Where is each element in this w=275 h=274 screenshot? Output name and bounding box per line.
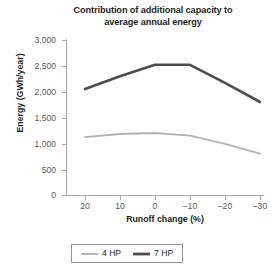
legend-swatch-4hp — [81, 250, 98, 258]
x-tick-mark-0 — [155, 196, 156, 200]
x-tick-label-m30: –30 — [243, 202, 275, 211]
y-tick-label-0: 0 — [10, 191, 56, 200]
y-axis-title: Energy (GWh/year) — [15, 33, 25, 153]
x-tick-mark-m20 — [225, 196, 226, 200]
legend-item-7hp: 7 HP — [133, 249, 173, 258]
chart-title-line-2: average annual energy — [104, 17, 201, 27]
chart-title-line-1: Contribution of additional capacity to — [73, 5, 232, 15]
x-tick-label-m10: –10 — [173, 202, 207, 211]
x-tick-mark-m10 — [190, 196, 191, 200]
x-tick-label-10: 10 — [103, 202, 137, 211]
y-tick-label-500: 500 — [10, 166, 56, 175]
chart-legend: 4 HP 7 HP — [71, 244, 183, 263]
chart-title: Contribution of additional capacity to a… — [34, 4, 272, 29]
legend-label-7hp: 7 HP — [154, 249, 173, 258]
legend-label-4hp: 4 HP — [102, 249, 121, 258]
x-tick-label-20: 20 — [68, 202, 102, 211]
x-axis-line — [66, 195, 264, 196]
legend-item-4hp: 4 HP — [81, 249, 121, 258]
x-tick-label-m20: –20 — [208, 202, 242, 211]
x-tick-mark-m30 — [260, 196, 261, 200]
series-line-4hp — [85, 133, 260, 154]
x-tick-mark-10 — [120, 196, 121, 200]
x-tick-mark-20 — [85, 196, 86, 200]
series-line-7hp — [85, 65, 260, 102]
x-tick-label-0: 0 — [138, 202, 172, 211]
chart-figure: Contribution of additional capacity to a… — [0, 0, 275, 274]
x-axis-title: Runoff change (%) — [66, 214, 264, 224]
series-lines — [67, 40, 263, 195]
legend-swatch-7hp — [133, 250, 150, 258]
plot-area — [67, 40, 263, 195]
